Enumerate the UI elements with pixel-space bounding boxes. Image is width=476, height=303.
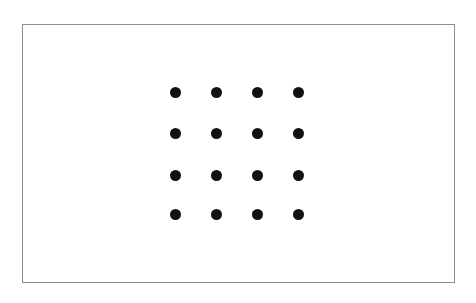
grid-dot	[252, 170, 263, 181]
grid-dot	[252, 128, 263, 139]
grid-dot	[170, 128, 181, 139]
grid-dot	[170, 170, 181, 181]
grid-dot	[252, 87, 263, 98]
grid-dot	[170, 87, 181, 98]
grid-dot	[293, 170, 304, 181]
page-background	[0, 0, 476, 303]
grid-dot	[293, 87, 304, 98]
grid-dot	[293, 128, 304, 139]
grid-dot	[211, 170, 222, 181]
grid-dot	[211, 87, 222, 98]
grid-dot	[211, 128, 222, 139]
grid-dot	[211, 209, 222, 220]
figure-frame	[22, 24, 455, 283]
grid-dot	[293, 209, 304, 220]
grid-dot	[252, 209, 263, 220]
grid-dot	[170, 209, 181, 220]
